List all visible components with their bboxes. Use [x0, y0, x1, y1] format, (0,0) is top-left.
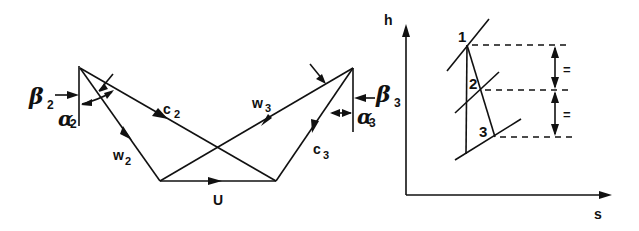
w3-label: w — [251, 95, 263, 111]
h-axis-arrow-icon — [402, 24, 410, 37]
alpha2-arrow-left-icon — [81, 99, 92, 106]
s-axis-arrow-icon — [599, 191, 612, 199]
w3-vector — [160, 68, 353, 181]
beta2-arrow-icon — [67, 91, 79, 99]
dimension-arrow-down-icon — [551, 77, 559, 89]
alpha3-arrow-right-icon — [342, 109, 352, 117]
dimension-arrow-down-icon — [551, 124, 559, 136]
isobar-1 — [447, 19, 489, 71]
velocity-triangles: β 2 α 2 c 2 w 2 w 3 c 3 U β 3 α 3 — [28, 64, 401, 208]
beta3-label: β — [375, 81, 391, 107]
isobar-3 — [455, 119, 521, 160]
alpha2-subscript: 2 — [70, 117, 77, 131]
w2-vector — [80, 68, 160, 181]
equal-mark-upper: = — [563, 62, 571, 77]
c3-label: c — [313, 141, 321, 157]
c3-arrow-icon — [311, 119, 319, 133]
dimension-arrow-up-icon — [551, 46, 559, 58]
w2-subscript: 2 — [125, 155, 131, 167]
c3-subscript: 3 — [323, 149, 329, 161]
inlet-blade-tick-arrow-icon — [99, 83, 108, 92]
outlet-blade-tick-arrow-icon — [316, 74, 326, 84]
alpha2-arrow-right-icon — [104, 90, 114, 99]
equal-mark-lower: = — [563, 107, 571, 122]
beta3-subscript: 3 — [394, 96, 401, 110]
enthalpy-entropy-diagram: h s = = 1 2 3 — [384, 12, 612, 222]
w2-label: w — [112, 147, 124, 163]
w3-subscript: 3 — [265, 102, 271, 114]
beta2-subscript: 2 — [47, 98, 54, 112]
c2-label: c — [163, 101, 171, 117]
h-axis-label: h — [384, 12, 393, 28]
turbine-stage-diagram: β 2 α 2 c 2 w 2 w 3 c 3 U β 3 α 3 h s — [0, 0, 639, 231]
c2-subscript: 2 — [174, 108, 180, 120]
state-point-3: 3 — [479, 123, 487, 140]
state-point-2: 2 — [469, 75, 477, 92]
u-arrow-icon — [208, 177, 222, 185]
alpha3-arrow-left-icon — [330, 109, 340, 117]
beta2-label: β — [28, 83, 44, 109]
isentropic-line — [466, 45, 467, 154]
c2-vector — [80, 68, 276, 181]
dimension-arrow-up-icon — [551, 91, 559, 103]
state-point-1: 1 — [458, 28, 466, 45]
s-axis-label: s — [594, 206, 602, 222]
u-label: U — [213, 192, 223, 208]
alpha3-subscript: 3 — [369, 116, 376, 130]
beta3-arrow-icon — [354, 94, 366, 102]
